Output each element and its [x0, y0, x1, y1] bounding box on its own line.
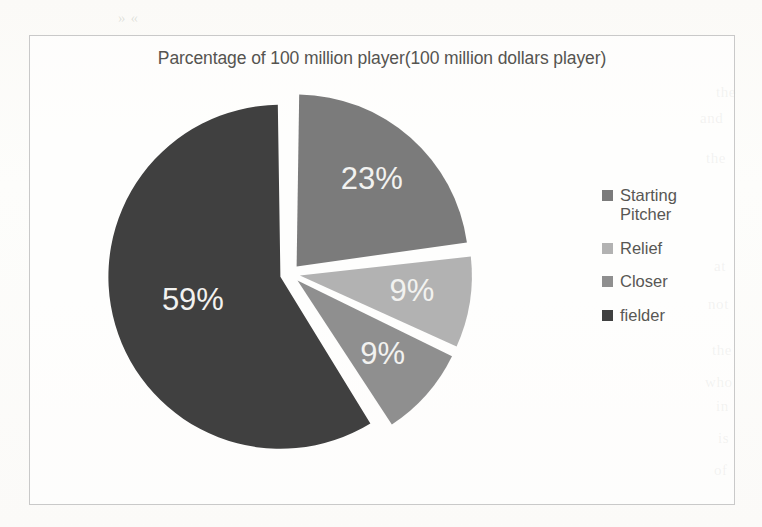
pie-chart: 23%9%9%59%	[100, 84, 480, 464]
bleedthrough-text: » «	[118, 10, 139, 27]
legend-swatch-icon	[602, 190, 613, 201]
pie-plot-area: 23%9%9%59% Starting PitcherReliefCloserf…	[30, 36, 736, 506]
legend-swatch-icon	[602, 310, 613, 321]
legend-item[interactable]: Closer	[602, 272, 732, 291]
chart-legend: Starting PitcherReliefCloserfielder	[602, 186, 732, 339]
legend-item-label: Starting Pitcher	[620, 186, 677, 225]
legend-item-label: Closer	[620, 272, 668, 291]
legend-item-label: fielder	[620, 306, 665, 325]
legend-swatch-icon	[602, 243, 613, 254]
pie-data-label: 9%	[360, 336, 405, 371]
pie-data-label: 9%	[390, 273, 435, 308]
legend-item[interactable]: Relief	[602, 239, 732, 258]
legend-item[interactable]: Starting Pitcher	[602, 186, 732, 225]
legend-swatch-icon	[602, 276, 613, 287]
chart-frame: Parcentage of 100 million player(100 mil…	[29, 35, 735, 505]
legend-item[interactable]: fielder	[602, 306, 732, 325]
pie-data-label: 23%	[341, 161, 403, 196]
pie-data-label: 59%	[162, 282, 224, 317]
legend-item-label: Relief	[620, 239, 662, 258]
pie-slice-group	[108, 95, 471, 449]
